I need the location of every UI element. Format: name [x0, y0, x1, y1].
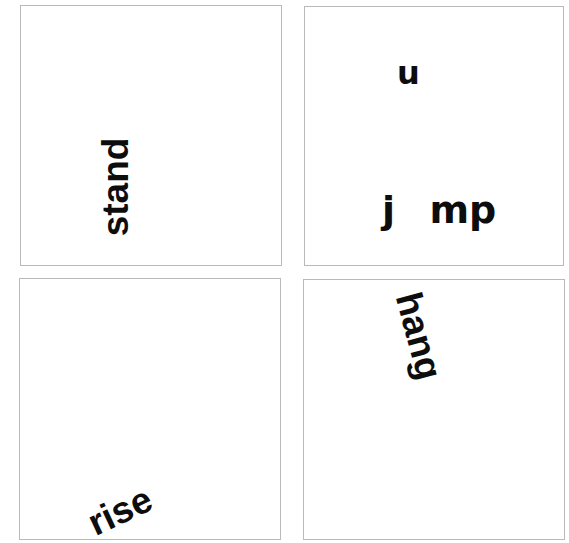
word-hang: hang [388, 283, 450, 389]
word-card-bottom-right: hang [303, 279, 565, 540]
word-u-fragment: u [397, 57, 420, 89]
word-stand: stand [97, 127, 134, 247]
word-card-bottom-left: rise [19, 278, 281, 540]
word-jump-missing-letter: j mp [382, 191, 496, 229]
word-card-top-left: stand [20, 5, 282, 266]
word-card-top-right: u j mp [304, 6, 564, 266]
word-rise: rise [71, 475, 168, 540]
